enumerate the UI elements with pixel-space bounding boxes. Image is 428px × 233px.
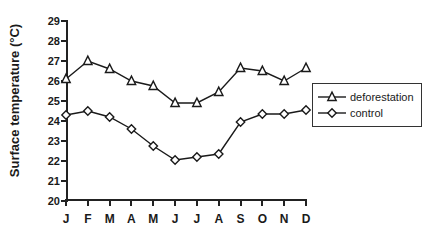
y-tick-label: 27 xyxy=(48,55,60,67)
legend-label: deforestation xyxy=(350,91,414,103)
data-point-marker xyxy=(280,110,288,118)
y-tick-label: 28 xyxy=(48,35,60,47)
x-tick-label: A xyxy=(214,212,223,226)
y-axis-title-container: Surface temperature (°C) xyxy=(0,0,30,200)
x-tick-label: M xyxy=(148,212,158,226)
data-point-marker xyxy=(215,150,223,158)
data-point-marker xyxy=(328,109,336,117)
chart-legend: deforestationcontrol xyxy=(312,83,422,127)
y-tick-label: 22 xyxy=(48,155,60,167)
x-tick-label: D xyxy=(302,212,311,226)
data-series-layer xyxy=(66,21,306,201)
data-point-marker xyxy=(302,106,310,114)
data-point-marker xyxy=(171,156,179,164)
legend-marker-diamond-icon xyxy=(317,106,347,120)
y-tick-label: 23 xyxy=(48,135,60,147)
legend-item-deforestation[interactable]: deforestation xyxy=(317,89,414,105)
data-point-marker xyxy=(127,76,135,84)
y-tick-label: 26 xyxy=(48,75,60,87)
data-point-marker xyxy=(193,153,201,161)
data-point-marker xyxy=(84,107,92,115)
series-line xyxy=(66,110,306,160)
data-point-marker xyxy=(62,111,70,119)
y-axis-title: Surface temperature (°C) xyxy=(8,23,23,176)
x-tick-label: M xyxy=(105,212,115,226)
y-tick-label: 29 xyxy=(48,15,60,27)
legend-marker-triangle-icon xyxy=(317,90,347,104)
series-control xyxy=(62,106,310,164)
y-tick-label: 21 xyxy=(48,175,60,187)
y-tick-label: 24 xyxy=(48,115,60,127)
x-tick-label: F xyxy=(84,212,91,226)
y-tick-label: 25 xyxy=(48,95,60,107)
series-line xyxy=(66,61,306,103)
data-point-marker xyxy=(84,56,92,64)
x-tick-label: O xyxy=(258,212,267,226)
data-point-marker xyxy=(105,113,113,121)
data-point-marker xyxy=(62,74,70,82)
x-tick-label: J xyxy=(63,212,70,226)
data-point-marker xyxy=(236,63,244,71)
x-tick-label: S xyxy=(237,212,245,226)
data-point-marker xyxy=(302,63,310,71)
x-tick-label: N xyxy=(280,212,289,226)
legend-label: control xyxy=(350,107,383,119)
data-point-marker xyxy=(258,110,266,118)
x-tick-label: A xyxy=(127,212,136,226)
y-tick-label: 20 xyxy=(48,195,60,207)
x-tick-label: J xyxy=(172,212,179,226)
plot-area: 29282726252423222120 JFMAMJJASOND xyxy=(66,21,306,201)
legend-item-control[interactable]: control xyxy=(317,105,414,121)
x-tick-label: J xyxy=(194,212,201,226)
series-deforestation xyxy=(62,56,310,106)
chart-figure: Surface temperature (°C) 292827262524232… xyxy=(0,0,428,233)
data-point-marker xyxy=(236,118,244,126)
